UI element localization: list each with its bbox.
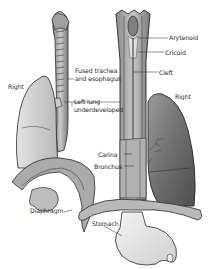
label-left-lung-line2: underdeveloped [74,106,123,113]
label-left-lung-line1: Left lung [74,98,100,105]
label-carina: Carina [98,151,118,158]
label-stomach: Stomach [92,220,119,227]
left-figure [12,12,128,232]
label-fused-trachea-line1: Fused trachea [75,67,117,74]
label-fused-trachea-line2: and esophagus [75,75,121,82]
label-diaphragm: Diaphragm [30,207,64,214]
label-right-right-figure: Right [175,93,191,100]
label-right-left-figure: Right [8,83,24,90]
arytenoid-structure [128,16,138,36]
label-cricoid: Cricoid [165,49,186,56]
label-cleft: Cleft [159,69,173,76]
label-bronchus: Bronchus [94,163,122,170]
label-arytenoid: Arytenoid [169,34,198,41]
right-lung-right-figure [148,94,195,206]
carina-region [120,138,146,198]
